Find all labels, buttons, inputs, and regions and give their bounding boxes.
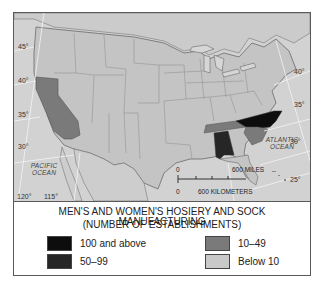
scale-miles-label: 600 MILES bbox=[232, 167, 264, 174]
legend-swatch-100-above bbox=[47, 236, 72, 251]
lon-label-120: 120° bbox=[17, 193, 31, 200]
lat-label-right-25: 25° bbox=[290, 176, 301, 183]
legend-label-50-99: 50–99 bbox=[80, 257, 108, 267]
legend-label-10-49: 10–49 bbox=[238, 239, 266, 249]
map-figure: 45° 40° 35° 30° 40° 35° 30° 25° 120° 115… bbox=[13, 12, 311, 276]
scale-zero-km: 0 bbox=[176, 189, 180, 196]
legend-label-below-10: Below 10 bbox=[238, 257, 279, 267]
lat-label-right-40: 40° bbox=[294, 68, 305, 75]
lat-label-40: 40° bbox=[18, 77, 29, 84]
lat-label-45: 45° bbox=[18, 43, 29, 50]
scale-km-label: 600 KILOMETERS bbox=[198, 189, 253, 196]
lat-label-right-35: 35° bbox=[294, 101, 305, 108]
legend-swatch-below-10 bbox=[205, 254, 230, 269]
pacific-ocean-label: PACIFIC OCEAN bbox=[24, 163, 64, 177]
legend-swatch-50-99 bbox=[47, 254, 72, 269]
legend-title-line2: (NUMBER OF ESTABLISHMENTS) bbox=[14, 220, 310, 230]
legend: MEN'S AND WOMEN'S HOSIERY AND SOCK MANUF… bbox=[14, 202, 310, 275]
lat-label-35: 35° bbox=[18, 111, 29, 118]
atlantic-ocean-label: ATLANTIC OCEAN bbox=[260, 137, 304, 151]
legend-label-100-above: 100 and above bbox=[80, 239, 146, 249]
lat-label-30: 30° bbox=[18, 143, 29, 150]
scale-zero-miles: 0 bbox=[176, 167, 180, 174]
legend-swatch-10-49 bbox=[205, 236, 230, 251]
lon-label-115: 115° bbox=[44, 193, 58, 200]
us-map: 45° 40° 35° 30° 40° 35° 30° 25° 120° 115… bbox=[14, 13, 310, 202]
